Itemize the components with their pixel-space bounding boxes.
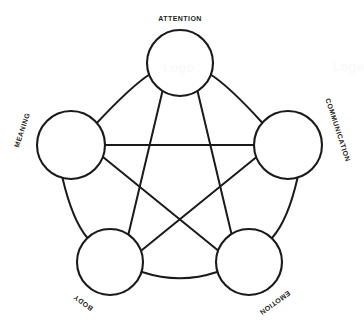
node-circle-communication[interactable]: [254, 111, 322, 179]
arc-communication-emotion: [272, 178, 298, 238]
arc-attention-communication: [210, 74, 263, 123]
arc-body-meaning: [63, 178, 88, 238]
arc-emotion-body: [142, 272, 217, 278]
star-chord-group: [103, 91, 257, 250]
chord-attention-emotion: [198, 91, 232, 234]
watermark-corner: Logo: [333, 61, 364, 73]
node-circle-emotion[interactable]: [216, 229, 282, 295]
node-circle-meaning[interactable]: [37, 111, 105, 179]
arc-meaning-attention: [97, 74, 151, 123]
node-label-attention: ATTENTION: [158, 15, 202, 22]
chord-body-attention: [129, 91, 163, 234]
node-circle-body[interactable]: [77, 229, 143, 295]
watermark-center: Logo: [163, 62, 194, 74]
